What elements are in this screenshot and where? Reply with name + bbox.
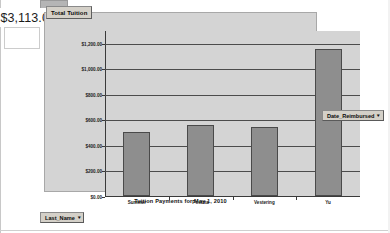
series-field-button-total-tuition[interactable]: Total Tuition [46,6,92,19]
chart-area: $0.00$200.00$400.00$600.00$800.00$1,000.… [44,12,317,192]
y-tick-label: $400.00 [85,143,102,148]
gridline [105,44,360,45]
y-tick-label: $1,200.00 [82,41,102,46]
y-tick-mark [102,95,105,96]
x-tick-label: Yu [325,200,331,205]
y-tick-label: $800.00 [85,92,102,97]
y-tick-label: $200.00 [85,169,102,174]
y-tick-mark [102,171,105,172]
form-bottom-border [0,230,390,231]
series-field-label: Total Tuition [51,10,87,16]
empty-cell-box [4,27,40,49]
y-tick-mark [102,44,105,45]
filter-button-last-name[interactable]: Last_Name ▾ [40,212,84,223]
pivotchart-screen: $3,113.00 $0.00$200.00$400.00$600.00$800… [0,0,390,233]
bar[interactable] [315,49,342,196]
y-tick-mark [102,146,105,147]
filter-button-date-reimbursed[interactable]: Date_Reimbursed ▾ [322,110,384,121]
filter-label-last-name: Last_Name [45,215,75,221]
bar[interactable] [187,125,214,197]
y-tick-label: $600.00 [85,118,102,123]
x-axis-title: Tuition Payments for May 1, 2010 [44,198,317,204]
chevron-down-icon: ▾ [78,215,81,220]
chevron-down-icon: ▾ [377,113,380,118]
bar[interactable] [251,127,278,196]
y-tick-mark [102,69,105,70]
y-tick-mark [102,120,105,121]
bar[interactable] [123,132,150,196]
form-left-border [0,0,1,233]
filter-label-date-reimbursed: Date_Reimbursed [327,113,375,119]
y-tick-label: $1,000.00 [82,67,102,72]
